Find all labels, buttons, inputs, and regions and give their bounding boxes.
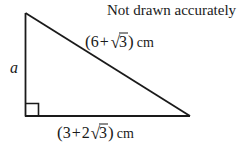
hypotenuse-close-paren: )	[128, 32, 134, 51]
hypotenuse-first-term: 6	[91, 33, 99, 50]
vertical-side-label: a	[10, 60, 18, 76]
base-radical: √3	[90, 124, 108, 141]
not-drawn-accurately-note: Not drawn accurately	[107, 3, 236, 18]
triangle-hypotenuse-side	[26, 13, 191, 116]
base-close-paren: )	[108, 123, 114, 142]
geometry-figure: Not drawn accurately a (6+√3)cm (3+2√3)c…	[0, 0, 251, 152]
hypotenuse-radical: √3	[110, 33, 128, 50]
hypotenuse-label: (6+√3)cm	[85, 33, 154, 50]
base-operator: +	[71, 124, 82, 141]
hypotenuse-unit: cm	[134, 35, 154, 50]
base-radicand: 3	[99, 124, 108, 141]
base-expression: (3+2√3)cm	[57, 124, 134, 141]
hypotenuse-expression: (6+√3)cm	[85, 33, 154, 50]
hypotenuse-operator: +	[99, 33, 110, 50]
base-unit: cm	[114, 126, 134, 141]
base-first-term: 3	[63, 124, 71, 141]
base-coefficient: 2	[82, 124, 90, 141]
right-angle-marker-icon	[26, 104, 39, 117]
base-label: (3+2√3)cm	[57, 124, 134, 141]
hypotenuse-radicand: 3	[119, 33, 128, 50]
